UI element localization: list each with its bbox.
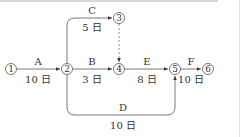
- activity-b-name: B: [88, 56, 95, 67]
- svg-text:6: 6: [205, 64, 211, 74]
- activity-d-name: D: [119, 102, 127, 113]
- svg-text:1: 1: [8, 64, 14, 74]
- activity-c-name: C: [88, 5, 96, 16]
- node-4: 4: [114, 64, 125, 75]
- activity-a-duration: 10 日: [25, 74, 51, 85]
- activity-d-duration: 10 日: [110, 120, 136, 131]
- arrow-diagram: 1 2 3 4 5 6 A 10 日 B 3 日 C 5 日 D 10 日 E …: [0, 0, 244, 137]
- svg-text:3: 3: [116, 13, 122, 23]
- node-3: 3: [114, 13, 125, 24]
- activity-e-duration: 8 日: [137, 74, 157, 85]
- svg-text:4: 4: [116, 64, 122, 74]
- node-6: 6: [203, 64, 214, 75]
- node-1: 1: [6, 64, 17, 75]
- activity-f-name: F: [188, 56, 195, 67]
- svg-text:5: 5: [172, 64, 178, 74]
- node-5: 5: [170, 64, 181, 75]
- activity-b-duration: 3 日: [82, 74, 102, 85]
- svg-text:2: 2: [64, 64, 70, 74]
- node-2: 2: [62, 64, 73, 75]
- activity-e-name: E: [143, 56, 150, 67]
- activity-a-name: A: [33, 56, 42, 67]
- activity-f-duration: 10 日: [178, 74, 204, 85]
- activity-c-duration: 5 日: [82, 22, 102, 33]
